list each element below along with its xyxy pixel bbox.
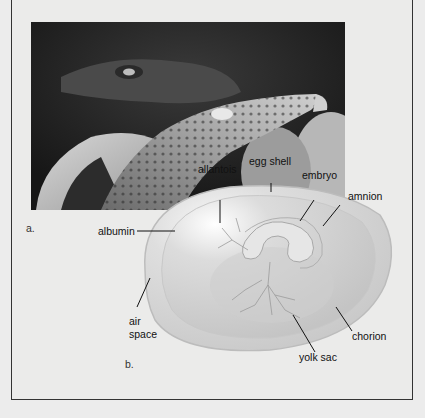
label-amnion: amnion [348,190,382,202]
photo-illustration [31,22,345,210]
label-yolk-sac: yolk sac [299,351,337,363]
label-egg-shell: egg shell [249,155,291,167]
panel-label-b: b. [125,358,134,370]
label-embryo: embryo [302,169,337,181]
label-air-space-1: air [129,315,141,327]
label-air-space-2: space [129,328,157,340]
panel-label-a: a. [26,222,35,234]
label-chorion: chorion [352,330,386,342]
label-albumin: albumin [98,225,135,237]
crocodile-hatching-photo [31,22,345,210]
label-allantois: allantois [198,163,237,175]
